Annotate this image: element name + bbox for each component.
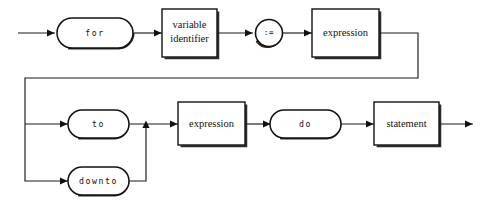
rail-assign-to-expression [283, 29, 313, 36]
rail-branch-downto-keyword [25, 124, 68, 185]
downto-keyword-label: downto [79, 176, 118, 186]
node-for-keyword: for [57, 18, 134, 49]
railroad-diagram-svg: for variable identifier := [0, 0, 488, 211]
rail-for-to-varid [133, 29, 162, 36]
arrow-right-icon [465, 120, 473, 127]
for-keyword-label: for [85, 28, 105, 38]
rail-to-expression-final [129, 120, 178, 127]
node-downto-keyword: downto [68, 167, 129, 196]
expression-initial-label: expression [323, 27, 369, 38]
rail-varid-to-assign [217, 29, 253, 36]
arrow-right-icon [170, 120, 178, 127]
variable-identifier-label-line1: variable [173, 19, 207, 30]
arrow-right-icon [60, 177, 68, 184]
entry-rail [18, 29, 55, 36]
do-keyword-label: do [299, 119, 312, 129]
variable-identifier-label-line2: identifier [170, 33, 209, 44]
arrow-right-icon [304, 29, 312, 36]
node-to-keyword: to [68, 110, 129, 139]
rail-downto-merge [129, 120, 150, 181]
exit-rail [439, 120, 473, 127]
expression-final-label: expression [189, 118, 235, 129]
node-expression-final: expression [178, 102, 246, 146]
assign-operator-label: := [264, 28, 274, 37]
railroad-diagram-canvas: for variable identifier := [0, 0, 488, 211]
to-keyword-label: to [92, 119, 105, 129]
node-variable-identifier: variable identifier [162, 9, 218, 58]
arrow-right-icon [245, 29, 253, 36]
arrow-right-icon [47, 29, 55, 36]
node-expression-initial: expression [312, 9, 380, 58]
arrow-right-icon [60, 120, 68, 127]
node-do-keyword: do [270, 110, 341, 139]
node-assign-operator: := [256, 20, 283, 48]
rail-branch-to-keyword [25, 120, 68, 127]
arrow-right-icon [366, 120, 374, 127]
statement-label: statement [386, 118, 426, 129]
rail-expression-to-do [245, 120, 271, 127]
node-statement: statement [374, 102, 440, 146]
arrow-right-icon [154, 29, 162, 36]
rail-do-to-statement [341, 120, 374, 127]
